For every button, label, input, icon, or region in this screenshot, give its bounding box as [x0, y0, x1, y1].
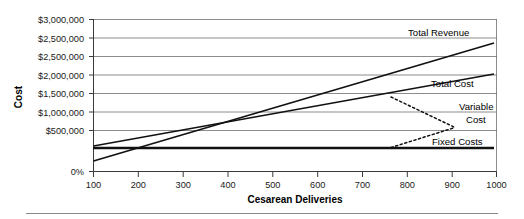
xtick-label-6: 700 — [355, 180, 370, 190]
ytick-label-4: $1,500,000 — [38, 89, 84, 99]
xtick-label-7: 800 — [400, 180, 415, 190]
series-label-variable-cost-line2: Cost — [466, 114, 486, 125]
xtick-label-9: 1000 — [486, 180, 506, 190]
ytick-label-5: $1,000,000 — [38, 108, 84, 118]
y-tick-labels: $3,000,000 $2,500,000 $2,500,000 $2,000,… — [38, 15, 84, 177]
series-label-variable-cost-line1: Variable — [459, 101, 494, 112]
ytick-label-0: $3,000,000 — [38, 15, 84, 25]
xtick-label-8: 900 — [445, 180, 460, 190]
series-label-total-cost: Total Cost — [431, 78, 474, 89]
cost-volume-profit-chart-figure: $3,000,000 $2,500,000 $2,500,000 $2,000,… — [0, 0, 524, 219]
x-tick-labels: 100 200 300 400 500 600 700 800 900 1000 — [86, 180, 507, 190]
xtick-label-4: 500 — [265, 180, 280, 190]
y-tickmarks — [89, 20, 94, 172]
ytick-label-3: $2,000,000 — [38, 71, 84, 81]
xtick-label-1: 200 — [131, 180, 146, 190]
ytick-label-1: $2,500,000 — [38, 34, 84, 44]
ytick-label-2: $2,500,000 — [38, 52, 84, 62]
y-axis-title: Cost — [13, 85, 24, 108]
xtick-label-2: 300 — [176, 180, 191, 190]
series-label-total-revenue: Total Revenue — [408, 27, 469, 38]
xtick-label-0: 100 — [86, 180, 101, 190]
x-axis-title: Cesarean Deliveries — [247, 194, 343, 205]
x-tickmarks — [94, 172, 497, 178]
xtick-label-3: 400 — [220, 180, 235, 190]
xtick-label-5: 600 — [310, 180, 325, 190]
ytick-label-6: $500,000 — [46, 126, 84, 136]
chart-canvas: $3,000,000 $2,500,000 $2,500,000 $2,000,… — [0, 0, 524, 219]
series-label-fixed-costs: Fixed Costs — [432, 136, 483, 147]
ytick-label-7: 0% — [71, 167, 84, 177]
